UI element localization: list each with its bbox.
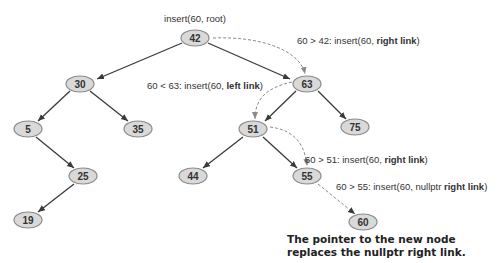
caption-line-1: The pointer to the new node bbox=[287, 233, 466, 246]
node-5: 5 bbox=[14, 121, 42, 137]
edge-42-30 bbox=[97, 43, 182, 79]
svg-text:75: 75 bbox=[349, 122, 361, 133]
node-60: 60 bbox=[349, 214, 377, 230]
caption: The pointer to the new node replaces the… bbox=[287, 233, 466, 259]
node-25: 25 bbox=[69, 168, 97, 184]
node-19: 19 bbox=[14, 212, 42, 228]
traversal-paths bbox=[213, 38, 355, 214]
tree-edges bbox=[36, 43, 346, 212]
node-63: 63 bbox=[293, 76, 321, 92]
caption-line-2: replaces the nullptr right link. bbox=[287, 246, 466, 259]
edge-30-35 bbox=[90, 91, 128, 121]
node-51: 51 bbox=[239, 121, 267, 137]
svg-text:5: 5 bbox=[25, 124, 31, 135]
annotation-60-gt-55: 60 > 55: insert(60, nullptr right link) bbox=[336, 181, 487, 192]
path-42-to-63 bbox=[213, 38, 305, 74]
svg-text:30: 30 bbox=[74, 79, 86, 90]
svg-text:19: 19 bbox=[22, 215, 34, 226]
svg-text:35: 35 bbox=[132, 124, 144, 135]
edge-25-19 bbox=[38, 184, 74, 212]
svg-text:63: 63 bbox=[301, 79, 313, 90]
annotation-60-gt-42: 60 > 42: insert(60, right link) bbox=[297, 35, 420, 46]
svg-text:60: 60 bbox=[357, 217, 369, 228]
node-42: 42 bbox=[181, 30, 209, 46]
annotation-60-lt-63: 60 < 63: insert(60, left link) bbox=[147, 80, 263, 91]
node-55: 55 bbox=[293, 168, 321, 184]
edge-42-63 bbox=[208, 43, 290, 79]
bst-insert-diagram: insert(60, root) 60 > 42: insert(60, rig… bbox=[0, 0, 499, 263]
edge-51-55 bbox=[263, 137, 297, 168]
node-30: 30 bbox=[66, 76, 94, 92]
edge-63-51 bbox=[265, 91, 296, 121]
edge-51-44 bbox=[203, 137, 243, 168]
svg-text:55: 55 bbox=[301, 171, 313, 182]
edge-5-25 bbox=[36, 137, 74, 168]
annotation-60-gt-51: 60 > 51: insert(60, right link) bbox=[305, 154, 428, 165]
node-35: 35 bbox=[124, 121, 152, 137]
node-44: 44 bbox=[179, 168, 207, 184]
svg-text:25: 25 bbox=[77, 171, 89, 182]
edge-30-5 bbox=[38, 91, 70, 121]
insert-call-label: insert(60, root) bbox=[164, 13, 226, 24]
svg-text:51: 51 bbox=[247, 124, 259, 135]
svg-text:42: 42 bbox=[189, 33, 201, 44]
svg-text:44: 44 bbox=[187, 171, 199, 182]
edge-63-75 bbox=[318, 91, 346, 119]
node-75: 75 bbox=[341, 119, 369, 135]
